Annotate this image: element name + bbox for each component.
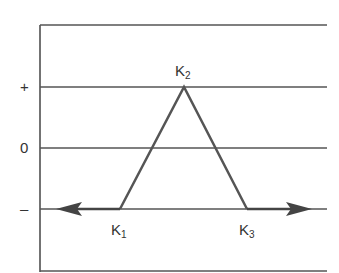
y-label-plus: + xyxy=(20,79,29,94)
k3-subscript: 3 xyxy=(249,229,255,240)
point-label-k3: K3 xyxy=(239,222,255,240)
y-label-zero: 0 xyxy=(20,140,28,155)
k2-letter: K xyxy=(175,62,185,79)
diagram-canvas xyxy=(0,0,339,273)
k1-letter: K xyxy=(111,221,121,238)
k1-subscript: 1 xyxy=(121,229,127,240)
k2-subscript: 2 xyxy=(185,70,191,81)
k3-letter: K xyxy=(239,221,249,238)
point-label-k1: K1 xyxy=(111,222,127,240)
point-label-k2: K2 xyxy=(175,63,191,81)
y-label-minus: – xyxy=(20,201,28,216)
